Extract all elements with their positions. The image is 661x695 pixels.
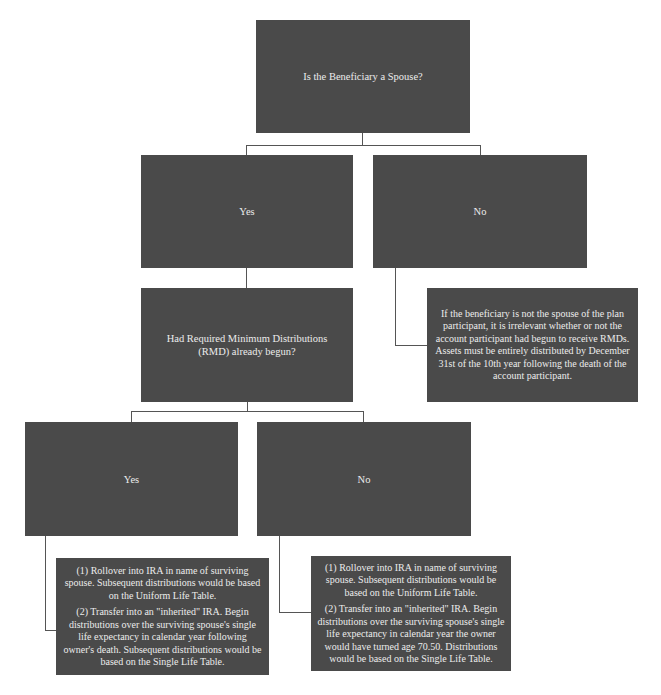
rmd-no-option-2: (2) Transfer into an "inherited" IRA. Be… xyxy=(317,603,505,666)
connector-no-vertical xyxy=(395,268,396,345)
spouse-no-box: No xyxy=(373,155,587,268)
connector-yes-to-rmd xyxy=(246,268,247,288)
connector-rmd-yes-vertical xyxy=(45,536,46,630)
connector-rmd-right-drop xyxy=(363,411,364,422)
rmd-no-label: No xyxy=(358,473,371,486)
connector-rmd-yes-horizontal xyxy=(45,630,56,631)
connector-root-right-drop xyxy=(480,145,481,155)
connector-rmd-stem xyxy=(247,402,248,411)
connector-rmd-no-vertical xyxy=(279,536,280,612)
connector-no-horizontal xyxy=(395,345,427,346)
rmd-yes-outcome-box: (1) Rollover into IRA in name of survivi… xyxy=(56,558,269,675)
rmd-question-box: Had Required Minimum Distributions (RMD)… xyxy=(141,288,353,402)
root-question-text: Is the Beneficiary a Spouse? xyxy=(303,70,423,83)
rmd-no-outcome-box: (1) Rollover into IRA in name of survivi… xyxy=(311,556,511,671)
rmd-question-text: Had Required Minimum Distributions (RMD)… xyxy=(155,332,339,358)
rmd-yes-box: Yes xyxy=(25,422,238,536)
connector-rmd-horizontal xyxy=(131,411,364,412)
non-spouse-outcome-box: If the beneficiary is not the spouse of … xyxy=(427,288,638,402)
non-spouse-outcome-text: If the beneficiary is not the spouse of … xyxy=(433,308,632,383)
rmd-no-box: No xyxy=(257,422,471,536)
spouse-yes-box: Yes xyxy=(141,155,353,268)
spouse-yes-label: Yes xyxy=(239,205,254,218)
rmd-yes-option-2: (2) Transfer into an "inherited" IRA. Be… xyxy=(62,606,263,669)
rmd-yes-label: Yes xyxy=(124,473,139,486)
root-question-box: Is the Beneficiary a Spouse? xyxy=(256,20,470,133)
rmd-yes-option-1: (1) Rollover into IRA in name of survivi… xyxy=(62,565,263,603)
connector-rmd-left-drop xyxy=(131,411,132,422)
rmd-no-option-1: (1) Rollover into IRA in name of survivi… xyxy=(317,562,505,600)
spouse-no-label: No xyxy=(474,205,487,218)
connector-root-horizontal xyxy=(246,145,480,146)
connector-rmd-no-horizontal xyxy=(279,612,311,613)
connector-root-stem xyxy=(362,133,363,145)
connector-root-left-drop xyxy=(246,145,247,155)
